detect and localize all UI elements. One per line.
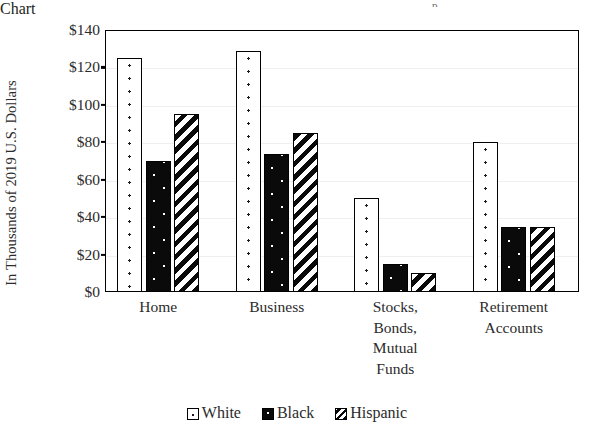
x-axis-category-label: RetirementAccounts [454,297,574,338]
x-axis-label-line: Accounts [454,318,574,339]
x-axis-label-line: Retirement [454,297,574,318]
x-axis-label-line: Stocks, [335,297,455,318]
bar-white-business [236,51,261,292]
x-axis-label-line: Home [98,297,218,318]
bar-black-home [146,161,171,292]
legend-item-label: Hispanic [350,404,407,422]
y-axis-tick-label: $0 [48,284,100,300]
y-axis-tick-label: $40 [48,209,100,225]
bar-hispanic-stocksbondsmutualfunds [411,273,436,292]
x-axis-label-line: Funds [335,359,455,380]
y-axis-tick-label: $20 [48,247,100,263]
x-axis-category-label: Business [217,297,337,318]
bar-white-stocksbondsmutualfunds [354,198,379,292]
legend-item-black[interactable]: Black [262,404,314,422]
y-axis-title: In Thousands of 2019 U.S. Dollars [0,74,22,292]
bar-hispanic-business [293,133,318,292]
diagonal-hatch-swatch [335,408,347,420]
x-axis-label-line: Mutual [335,338,455,359]
bar-white-home [117,58,142,292]
white-dotted-swatch [187,408,199,420]
chart-legend: WhiteBlackHispanic [0,404,594,422]
bar-black-retirementaccounts [501,227,526,293]
x-axis-category-label: Home [98,297,218,318]
y-axis-tick-labels: $140$120$100$80$60$40$20$0 [48,30,100,292]
x-axis-label-line: Bonds, [335,318,455,339]
bar-hispanic-retirementaccounts [530,227,555,293]
legend-item-white[interactable]: White [187,404,241,422]
bar-white-retirementaccounts [473,142,498,292]
y-axis-tick-label: $80 [48,135,100,151]
legend-item-label: White [202,404,241,422]
y-axis-tick-label: $60 [48,172,100,188]
x-axis-label-line: Business [217,297,337,318]
x-axis-category-label: Stocks,Bonds,MutualFunds [335,297,455,379]
bar-black-stocksbondsmutualfunds [383,264,408,292]
y-axis-tick-label: $100 [48,97,100,113]
bar-hispanic-home [174,114,199,292]
bar-black-business [264,154,289,292]
x-axis-category-labels: HomeBusinessStocks,Bonds,MutualFundsReti… [105,297,579,392]
black-dotted-swatch [262,408,274,420]
y-axis-tick-label: $120 [48,60,100,76]
y-axis-tick-label: $140 [48,22,100,38]
legend-item-label: Black [277,404,314,422]
clipped-title-artifact: p [432,0,458,7]
legend-item-hispanic[interactable]: Hispanic [335,404,407,422]
bars-layer [105,30,579,292]
